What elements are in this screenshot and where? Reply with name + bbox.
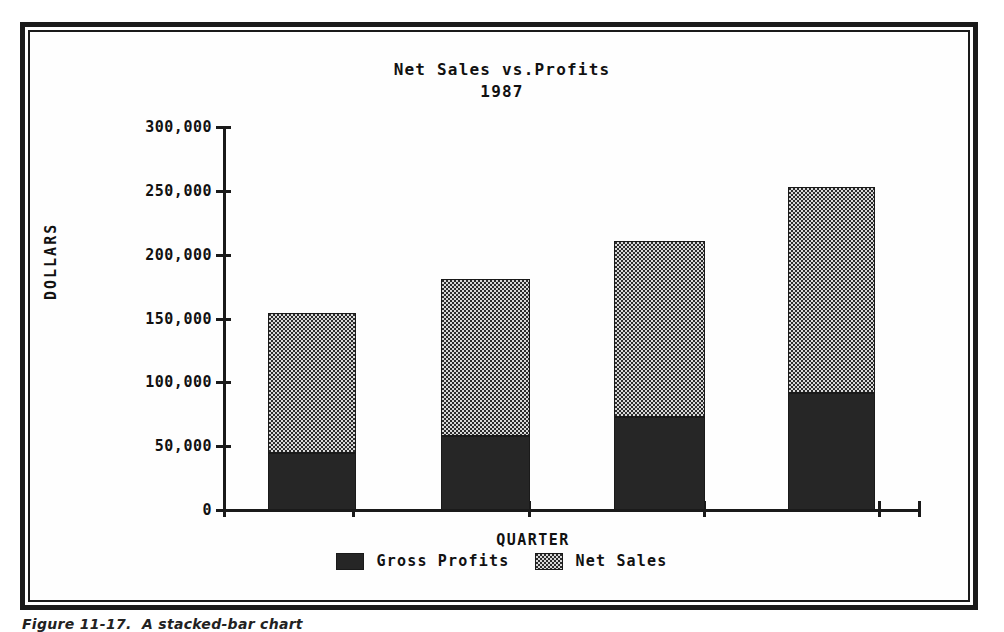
bar-segment-net-sales <box>268 313 356 452</box>
y-axis-tick <box>216 254 231 257</box>
y-axis-tick-label-text: 300,000 <box>100 118 212 136</box>
bar-segment-net-sales <box>614 241 705 417</box>
y-axis-tick-label-text: 150,000 <box>100 310 212 328</box>
y-axis-tick <box>216 190 231 193</box>
y-axis-tick <box>216 126 231 129</box>
chart-legend: Gross ProfitsNet Sales <box>0 552 1004 570</box>
x-axis-tick <box>223 501 226 517</box>
legend-swatch-icon <box>535 553 563 570</box>
x-axis-title: QUARTER <box>0 531 1004 549</box>
bar-segment-net-sales <box>441 279 530 436</box>
y-axis-tick-label-text: 100,000 <box>100 373 212 391</box>
legend-label: Net Sales <box>575 552 667 570</box>
legend-label: Gross Profits <box>376 552 509 570</box>
bar-segment-gross-profits <box>788 393 875 510</box>
y-axis-tick-label-text: 200,000 <box>100 246 212 264</box>
y-axis-tick-label-text: 0 <box>100 501 212 519</box>
bar-q1 <box>268 313 356 510</box>
legend-item-gross-profits: Gross Profits <box>336 552 509 570</box>
bar-q3 <box>614 241 705 510</box>
y-axis-tick-label-text: 250,000 <box>100 182 212 200</box>
bar-q4 <box>788 187 875 510</box>
bar-q2 <box>441 279 530 510</box>
y-axis-tick <box>216 381 231 384</box>
bar-segment-gross-profits <box>614 417 705 510</box>
bar-segment-gross-profits <box>441 436 530 510</box>
x-axis-tick <box>918 501 921 517</box>
y-axis-tick <box>216 318 231 321</box>
legend-swatch-icon <box>336 553 364 570</box>
y-axis-title: DOLLARS <box>42 223 60 300</box>
legend-item-net-sales: Net Sales <box>535 552 667 570</box>
x-axis-tick <box>878 501 881 517</box>
y-axis-tick <box>216 445 231 448</box>
figure-caption: Figure 11-17. A stacked-bar chart <box>22 616 303 632</box>
bar-segment-gross-profits <box>268 453 356 510</box>
chart-title: Net Sales vs.Profits <box>0 60 1004 79</box>
chart-subtitle: 1987 <box>0 82 1004 101</box>
bar-segment-net-sales <box>788 187 875 393</box>
y-axis-tick-label-text: 50,000 <box>100 437 212 455</box>
